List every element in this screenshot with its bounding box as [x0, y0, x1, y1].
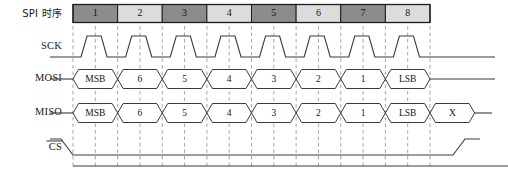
row-label-mosi: MOSI	[35, 72, 62, 83]
miso-bit-label: 6	[138, 108, 143, 118]
cycle-number-6: 6	[316, 7, 321, 18]
row-label-spi-sequence: SPI 时序	[22, 7, 62, 19]
mosi-bit-label: 4	[227, 74, 232, 84]
miso-bit-label: 5	[182, 108, 187, 118]
cycle-number-8: 8	[405, 7, 410, 18]
cycle-number-2: 2	[137, 7, 142, 18]
waveform-mosi: MSB654321LSB	[50, 70, 495, 89]
waveform-miso: MSB654321LSBX	[50, 104, 492, 123]
miso-bit-label: 3	[271, 108, 276, 118]
miso-bit-label: MSB	[85, 108, 105, 118]
mosi-bit-label: 5	[182, 74, 187, 84]
cycle-header-row: 12345678	[73, 5, 430, 23]
cs-enable-path	[50, 139, 480, 155]
miso-bit-label: X	[449, 108, 456, 118]
mosi-bit-label: 2	[316, 74, 321, 84]
miso-bit-label: 2	[316, 108, 321, 118]
mosi-bit-label: MSB	[85, 74, 105, 84]
spi-timing-diagram: 12345678 SPI 时序 SCK MOSI MISO CS MSB6543…	[0, 0, 508, 181]
sck-clock-path	[50, 36, 495, 57]
cycle-number-1: 1	[93, 7, 98, 18]
mosi-bit-label: 6	[138, 74, 143, 84]
row-label-cs: CS	[49, 141, 62, 152]
cycle-number-4: 4	[227, 7, 232, 18]
mosi-bit-label: 1	[361, 74, 366, 84]
mosi-bit-label: 3	[271, 74, 276, 84]
mosi-bit-label: LSB	[399, 74, 416, 84]
miso-bit-label: LSB	[399, 108, 416, 118]
row-label-miso: MISO	[35, 106, 62, 117]
waveform-sck	[50, 36, 495, 57]
row-label-sck: SCK	[41, 40, 62, 51]
miso-bit-label: 1	[361, 108, 366, 118]
cycle-number-3: 3	[182, 7, 187, 18]
cycle-number-5: 5	[271, 7, 276, 18]
miso-bit-label: 4	[227, 108, 232, 118]
cycle-number-7: 7	[361, 7, 366, 18]
timing-diagram-canvas: 12345678 SPI 时序 SCK MOSI MISO CS MSB6543…	[0, 0, 508, 181]
grid-lines	[73, 26, 430, 166]
waveform-cs	[50, 139, 480, 155]
